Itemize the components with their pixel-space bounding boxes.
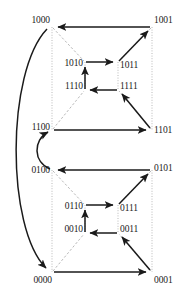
node-label-0001: 0001 bbox=[154, 275, 173, 285]
node-label-1000: 1000 bbox=[31, 15, 50, 25]
guide-1000-1010 bbox=[53, 28, 84, 61]
node-label-0100: 0100 bbox=[31, 165, 50, 175]
node-label-0101: 0101 bbox=[154, 163, 173, 173]
edge-1101-to-1111 bbox=[122, 94, 150, 128]
edge-0100-to-1100 bbox=[37, 132, 50, 169]
node-label-1110: 1110 bbox=[65, 81, 83, 91]
guide-0100-0110 bbox=[53, 171, 84, 204]
directed-edges-top bbox=[54, 27, 150, 130]
node-label-1001: 1001 bbox=[154, 15, 173, 25]
node-label-1101: 1101 bbox=[154, 125, 172, 135]
guide-0000-0010 bbox=[53, 234, 84, 271]
edge-1011-to-1001 bbox=[119, 31, 148, 61]
graph-canvas bbox=[0, 0, 192, 299]
node-label-1111: 1111 bbox=[120, 81, 138, 91]
node-label-0110: 0110 bbox=[65, 201, 83, 211]
node-label-1010: 1010 bbox=[64, 58, 83, 68]
node-label-0000: 0000 bbox=[33, 275, 52, 285]
directed-edges-bottom bbox=[54, 170, 150, 272]
edge-0001-to-0011 bbox=[122, 237, 150, 270]
node-label-1100: 1100 bbox=[32, 122, 50, 132]
guide-1100-1110 bbox=[53, 91, 84, 129]
curved-edges bbox=[16, 29, 50, 268]
edge-0111-to-0101 bbox=[119, 174, 148, 204]
node-label-0111: 0111 bbox=[120, 203, 138, 213]
node-label-1011: 1011 bbox=[120, 60, 138, 70]
hypercube-diagram: 1000 1001 1010 1011 1110 1111 1100 1101 … bbox=[0, 0, 192, 299]
node-label-0011: 0011 bbox=[120, 224, 138, 234]
node-label-0010: 0010 bbox=[64, 224, 83, 234]
edge-1000-to-0000 bbox=[16, 29, 47, 268]
